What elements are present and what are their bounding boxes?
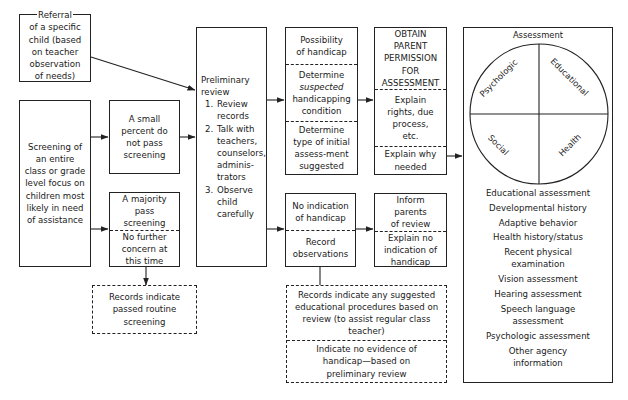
- assessment-item: Speech language assessment: [463, 303, 613, 327]
- referral-line: observation: [19, 58, 91, 70]
- assessment-item: Educational assessment: [463, 186, 613, 201]
- majority-box: A majority pass screening No further con…: [109, 192, 180, 267]
- assessment-item: Vision assessment: [463, 272, 613, 287]
- referral-line: Referral: [37, 10, 73, 20]
- explain-why-needed: Explain why needed: [375, 146, 446, 174]
- determine-assessment-type: Determine type of initial assess-ment su…: [286, 121, 357, 174]
- assessment-items: Educational assessment Developmental his…: [463, 186, 613, 371]
- determine-label: Determine: [299, 70, 344, 80]
- explain-rights: Explain rights, due process, etc.: [375, 89, 446, 146]
- assessment-item: Recent physical examination: [463, 246, 613, 270]
- determine-suspected-condition: Determine suspected handicapping conditi…: [286, 64, 357, 121]
- assessment-item: Adaptive behavior: [463, 216, 613, 231]
- small-percent-text: A small percent do not pass screening: [110, 101, 179, 173]
- preliminary-review-steps: Review records Talk with teachers, couns…: [201, 98, 265, 220]
- inform-parents-box: Inform parents of review Explain no indi…: [374, 193, 447, 267]
- referral-line: child (based: [19, 34, 91, 46]
- preliminary-review-content: Preliminary review Review records Talk w…: [197, 28, 266, 266]
- possibility-of-handicap: Possibility of handicap: [286, 28, 357, 64]
- no-indication-text: No indication of handicap: [286, 194, 355, 230]
- possibility-box: Possibility of handicap Determine suspec…: [285, 27, 358, 175]
- record-observations-text: Record observations: [286, 230, 355, 267]
- arrow-referral-to-review: [91, 57, 195, 90]
- review-step: Review records: [216, 98, 265, 122]
- records-suggested-box: Records indicate any suggested education…: [286, 285, 447, 383]
- assessment-title: Assessment: [463, 30, 613, 40]
- review-step: Talk with teachers, counselors, adminis-…: [216, 123, 265, 184]
- explain-no-indication-text: Explain no indication of handicap: [375, 231, 446, 269]
- assessment-item: Health history/status: [463, 230, 613, 245]
- referral-line: of needs): [34, 71, 76, 81]
- records-routine-box: Records indicate passed routine screenin…: [92, 285, 197, 334]
- no-evidence-text: Indicate no evidence of handicap—based o…: [287, 340, 446, 382]
- referral-text: Referral of a specific child (based on t…: [19, 9, 91, 83]
- review-step: Observe child carefully: [216, 184, 261, 221]
- referral-line: on teacher: [19, 46, 91, 58]
- small-percent-box: A small percent do not pass screening: [109, 100, 180, 174]
- preliminary-review-title: Preliminary review: [201, 74, 259, 98]
- records-suggested-text: Records indicate any suggested education…: [287, 286, 446, 340]
- assessment-item: Psychologic assessment: [463, 329, 613, 344]
- suspected-emphasis: suspected: [300, 82, 344, 92]
- condition-label: handicapping condition: [292, 94, 350, 116]
- screening-box: Screening of an entire class or grade le…: [19, 100, 91, 267]
- records-routine-text: Records indicate passed routine screenin…: [93, 286, 196, 333]
- referral-line: of a specific: [19, 21, 91, 33]
- obtain-permission-box: OBTAIN PARENT PERMISSION FOR ASSESSMENT …: [374, 27, 447, 175]
- inform-parents-text: Inform parents of review: [375, 194, 446, 231]
- screening-text: Screening of an entire class or grade le…: [20, 101, 90, 266]
- assessment-item: Other agency information: [463, 345, 613, 369]
- obtain-permission-heading: OBTAIN PARENT PERMISSION FOR ASSESSMENT: [375, 28, 446, 89]
- assessment-item: Developmental history: [463, 201, 613, 216]
- no-further-concern-text: No further concern at this time: [110, 230, 179, 268]
- assessment-item: Hearing assessment: [463, 287, 613, 302]
- majority-pass-text: A majority pass screening: [110, 193, 179, 230]
- preliminary-review-box: Preliminary review Review records Talk w…: [196, 27, 267, 267]
- no-indication-box: No indication of handicap Record observa…: [285, 193, 356, 267]
